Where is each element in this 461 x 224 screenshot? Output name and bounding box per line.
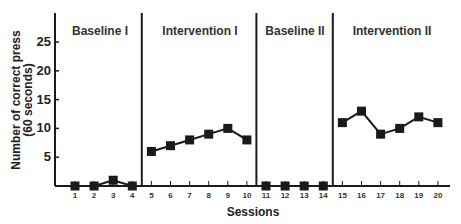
data-point-marker: [395, 124, 404, 133]
x-tick-label: 5: [149, 191, 154, 200]
data-point-marker: [357, 107, 366, 116]
x-tick-label: 9: [226, 191, 231, 200]
data-series-line: [151, 128, 247, 151]
x-tick-label: 14: [319, 191, 328, 200]
y-tick-label: 15: [37, 92, 51, 107]
x-tick-label: 17: [376, 191, 385, 200]
data-point-marker: [300, 182, 309, 191]
x-tick-label: 3: [111, 191, 116, 200]
phase-label: Intervention I: [162, 24, 237, 38]
data-point-marker: [109, 176, 118, 185]
x-axis-label: Sessions: [227, 205, 280, 219]
phase-label: Baseline II: [265, 24, 324, 38]
y-tick-label: 10: [37, 120, 51, 135]
x-tick-label: 2: [92, 191, 97, 200]
x-tick-label: 12: [281, 191, 290, 200]
data-point-marker: [147, 147, 156, 156]
data-point-marker: [376, 130, 385, 139]
data-point-marker: [242, 135, 251, 144]
single-subject-line-chart: 5101520251234567891011121314151617181920…: [0, 0, 461, 224]
data-point-marker: [319, 182, 328, 191]
x-tick-label: 13: [300, 191, 309, 200]
phase-label: Intervention II: [353, 24, 432, 38]
x-tick-label: 1: [73, 191, 78, 200]
y-tick-label: 25: [37, 34, 51, 49]
x-tick-label: 8: [206, 191, 211, 200]
x-tick-label: 15: [338, 191, 347, 200]
data-point-marker: [71, 182, 80, 191]
phase-label: Baseline I: [72, 24, 128, 38]
data-point-marker: [90, 182, 99, 191]
data-point-marker: [433, 118, 442, 127]
x-tick-label: 4: [130, 191, 135, 200]
x-tick-label: 16: [357, 191, 366, 200]
x-tick-label: 10: [242, 191, 251, 200]
data-point-marker: [128, 182, 137, 191]
x-tick-label: 6: [168, 191, 173, 200]
data-point-marker: [204, 130, 213, 139]
data-point-marker: [262, 182, 271, 191]
x-tick-label: 7: [187, 191, 192, 200]
data-point-marker: [338, 118, 347, 127]
data-series-line: [342, 111, 438, 134]
data-point-marker: [414, 112, 423, 121]
x-tick-label: 18: [395, 191, 404, 200]
data-point-marker: [185, 135, 194, 144]
x-tick-label: 11: [262, 191, 271, 200]
data-point-marker: [166, 141, 175, 150]
y-tick-label: 20: [37, 63, 51, 78]
y-axis-label-unit: (60 seconds): [21, 63, 35, 136]
data-point-marker: [281, 182, 290, 191]
x-tick-label: 20: [433, 191, 442, 200]
x-tick-label: 19: [414, 191, 423, 200]
y-tick-label: 5: [44, 149, 51, 164]
data-point-marker: [223, 124, 232, 133]
